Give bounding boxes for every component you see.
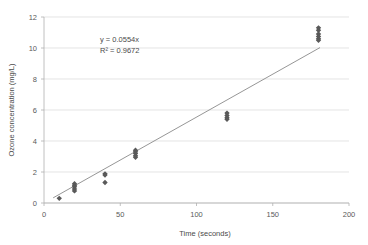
y-tick-label-4: 4 — [33, 137, 37, 146]
x-axis-title: Time (seconds) — [179, 229, 231, 238]
data-point — [102, 180, 107, 185]
trendline-group — [53, 48, 320, 198]
scatter-chart: 024681012 050100150200 Ozone concentrati… — [0, 0, 368, 245]
x-tick-label-100: 100 — [190, 210, 203, 219]
y-tick-label-0: 0 — [33, 199, 37, 208]
y-axis-title: Ozone concentration (mg/L) — [7, 63, 16, 156]
trendline — [53, 48, 320, 198]
data-point — [57, 196, 62, 201]
y-tick-label-10: 10 — [29, 44, 37, 53]
x-tick-label-50: 50 — [116, 210, 124, 219]
y-tick-label-8: 8 — [33, 75, 37, 84]
gridlines-group — [44, 17, 349, 203]
y-tick-label-2: 2 — [33, 168, 37, 177]
x-tick-label-0: 0 — [42, 210, 46, 219]
trendline-equation-label: y = 0.0554x — [100, 35, 139, 44]
x-tick-labels: 050100150200 — [42, 210, 355, 219]
chart-canvas: 024681012 050100150200 Ozone concentrati… — [0, 0, 368, 245]
y-tick-label-6: 6 — [33, 106, 37, 115]
r-squared-label: R² = 0.9672 — [100, 46, 139, 55]
data-points-group — [57, 25, 322, 201]
y-tick-labels: 024681012 — [29, 13, 37, 208]
x-tick-label-150: 150 — [266, 210, 279, 219]
x-tick-label-200: 200 — [343, 210, 356, 219]
y-tick-label-12: 12 — [29, 13, 37, 22]
tickmarks-group — [41, 17, 349, 206]
